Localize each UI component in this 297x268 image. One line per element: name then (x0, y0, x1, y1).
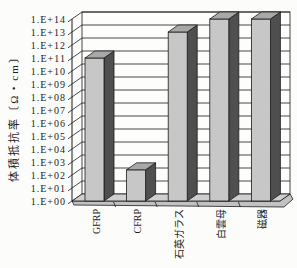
y-tick-label: 1.E+03 (31, 157, 66, 168)
bar-side (104, 51, 114, 201)
bar-side (270, 12, 280, 201)
y-tick-label: 1.E+04 (31, 144, 66, 155)
y-tick-label: 1.E+14 (31, 14, 66, 25)
y-tick-label: 1.E+02 (31, 170, 66, 181)
y-tick-label: 1.E+05 (31, 131, 66, 142)
y-tick (68, 129, 82, 139)
chart-svg: 1.E+001.E+011.E+021.E+031.E+041.E+051.E+… (0, 0, 297, 268)
y-axis-title: 体積抵抗率〔Ω・cm〕 (7, 50, 20, 182)
bar (210, 19, 229, 201)
y-tick-label: 1.E+08 (31, 92, 66, 103)
y-tick (68, 116, 82, 126)
y-tick (68, 38, 82, 48)
resistivity-chart-figure: 1.E+001.E+011.E+021.E+031.E+041.E+051.E+… (0, 0, 297, 268)
y-tick-label: 1.E+00 (31, 196, 66, 207)
category-label: 磁器 (256, 209, 268, 229)
y-tick (68, 77, 82, 87)
y-tick-label: 1.E+11 (31, 53, 66, 64)
y-tick (68, 142, 82, 152)
y-tick-label: 1.E+01 (31, 183, 66, 194)
y-tick (68, 64, 82, 74)
category-label: 白雲母 (215, 209, 227, 239)
y-tick (68, 168, 82, 178)
category-label: CFRP (132, 209, 143, 234)
y-tick (68, 155, 82, 165)
y-tick (68, 90, 82, 100)
y-tick-label: 1.E+07 (31, 105, 66, 116)
bar (168, 32, 187, 201)
y-tick (68, 25, 82, 35)
y-tick (68, 103, 82, 113)
y-tick-label: 1.E+13 (31, 27, 66, 38)
y-tick-label: 1.E+12 (31, 40, 66, 51)
y-tick-label: 1.E+06 (31, 118, 66, 129)
category-label: 石英ガラス (173, 209, 185, 259)
bar-side (187, 25, 197, 201)
y-tick-label: 1.E+09 (31, 79, 66, 90)
bar (85, 58, 104, 201)
y-tick-label: 1.E+10 (31, 66, 66, 77)
category-label: GFRP (91, 209, 102, 234)
y-tick (68, 51, 82, 61)
bar-side (229, 12, 239, 201)
bar (127, 170, 146, 201)
y-tick (68, 181, 82, 191)
y-tick (68, 12, 82, 22)
bar (251, 19, 270, 201)
